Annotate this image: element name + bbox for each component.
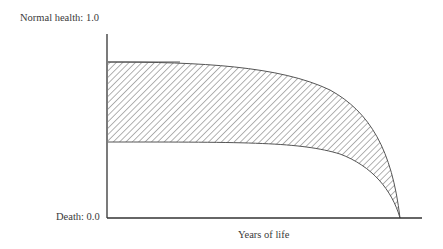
- x-axis-label: Years of life: [238, 229, 289, 240]
- y-label-death: Death: 0.0: [56, 211, 100, 222]
- y-label-normal-health: Normal health: 1.0: [20, 12, 99, 23]
- hatched-area: [108, 62, 400, 218]
